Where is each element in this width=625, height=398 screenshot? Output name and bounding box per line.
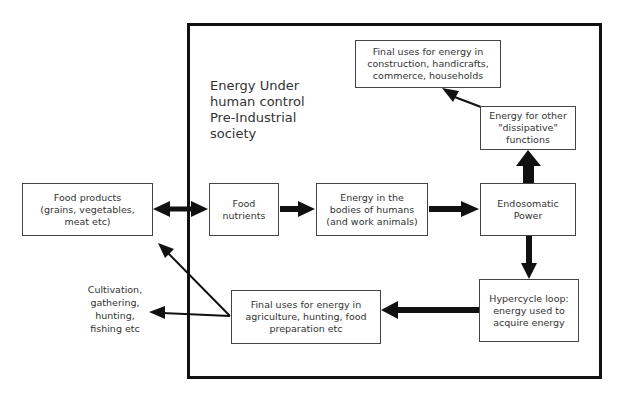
arrow-endosomatic-to-hypercycle [521, 235, 537, 279]
arrow-endosomatic-to-dissipative [516, 150, 541, 183]
label-cultivation: Cultivation, gathering, hunting, fishing… [80, 283, 150, 335]
node-final-uses-agriculture: Final uses for energy in agriculture, hu… [231, 290, 381, 344]
arrow-nutrients-to-bodies [280, 201, 315, 217]
node-final-uses-construction: Final uses for energy in construction, h… [355, 40, 501, 88]
arrow-hypercycle-to-final-bottom [381, 301, 480, 319]
arrow-dissipative-to-final-top [442, 88, 481, 107]
node-endosomatic-power: Endosomatic Power [480, 183, 576, 236]
arrow-food-bidirectional [153, 201, 208, 217]
arrow-final-bottom-to-food-products [158, 243, 230, 316]
node-dissipative-functions: Energy for other "dissipative" functions [480, 106, 576, 150]
node-food-products: Food products (grains, vegetables, meat … [22, 183, 153, 236]
arrow-final-bottom-to-cultivation [149, 306, 230, 319]
node-food-nutrients: Food nutrients [209, 183, 279, 236]
arrow-bodies-to-endosomatic [429, 201, 479, 217]
node-energy-bodies: Energy in the bodies of humans (and work… [316, 183, 428, 236]
node-hypercycle-loop: Hypercycle loop: energy used to acquire … [479, 279, 579, 342]
